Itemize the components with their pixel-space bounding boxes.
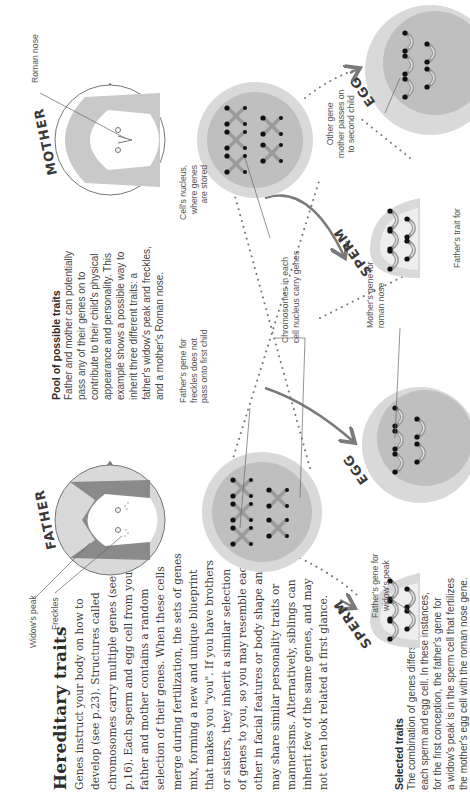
- egg-cell-1: [362, 387, 470, 503]
- label-line: freckles does not: [189, 329, 200, 403]
- label-line: Father's gene for: [370, 553, 381, 618]
- label-freckles: Freckles: [50, 598, 61, 630]
- label-line: roman nose: [376, 261, 387, 328]
- label-widows-peak: Widow's peak: [28, 595, 39, 648]
- label-line: cell nucleus carry genes: [291, 251, 302, 343]
- label-mother-nose-gene: Mother's gene for roman nose: [365, 261, 386, 328]
- label-roman-nose: Roman nose: [30, 34, 41, 83]
- label-father-trait: Father's trait for: [452, 208, 463, 268]
- father-portrait: [55, 465, 165, 575]
- egg-cell-2: [365, 5, 470, 135]
- label-line: to second child: [346, 90, 357, 158]
- label-line: Chromosomes in each: [280, 251, 291, 343]
- label-line: where genes: [189, 165, 200, 220]
- mother-cell-nucleus: [197, 82, 313, 198]
- label-line: are stored: [199, 165, 210, 220]
- label-line: Father's gene for: [178, 329, 189, 403]
- mother-portrait: [55, 85, 165, 195]
- label-father-widow-gene: Father's gene for widow's peak: [370, 553, 391, 618]
- label-nucleus: Cell's nucleus, where genes are stored: [178, 165, 210, 220]
- label-other-gene: Other gene mother passes on to second ch…: [325, 90, 357, 158]
- label-line: pass onto first child: [199, 329, 210, 403]
- label-chromosomes: Chromosomes in each cell nucleus carry g…: [280, 251, 301, 343]
- label-line: widow's peak: [381, 553, 392, 618]
- label-line: mother passes on: [336, 90, 347, 158]
- label-line: Cell's nucleus,: [178, 165, 189, 220]
- label-freckles-gene: Father's gene for freckles does not pass…: [178, 329, 210, 403]
- label-line: Other gene: [325, 90, 336, 158]
- father-cell-nucleus: [202, 452, 322, 572]
- label-line: Mother's gene for: [365, 261, 376, 328]
